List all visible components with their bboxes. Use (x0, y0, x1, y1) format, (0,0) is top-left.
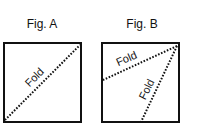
figure-a-title: Fig. A (27, 17, 58, 31)
figure-b-title: Fig. B (126, 17, 157, 31)
figure-b-square (102, 43, 179, 122)
figure-a-fold-line (5, 45, 80, 120)
figure-a: Fig. A Fold (4, 17, 81, 122)
fold-diagram: Fig. A Fold Fig. B Fold Fold (0, 0, 211, 123)
figure-b: Fig. B Fold Fold (102, 17, 179, 122)
figure-b-fold-line-1 (103, 46, 177, 80)
figure-b-fold-label-2: Fold (136, 77, 156, 102)
figure-a-square (4, 43, 81, 122)
figure-a-fold-label: Fold (22, 65, 46, 89)
